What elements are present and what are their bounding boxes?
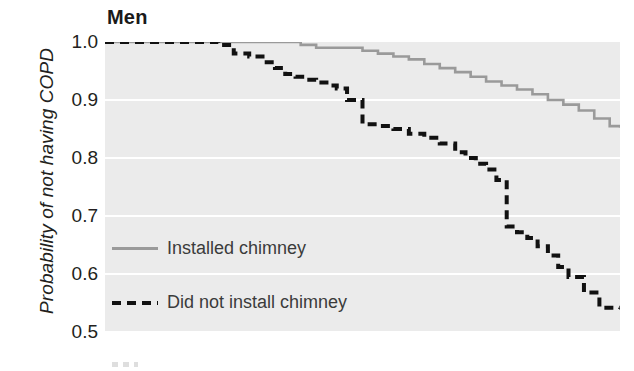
chart-figure: Probability of not having COPD 1.0 0.9 0… [0,0,634,371]
y-tick-label: 0.5 [52,321,98,343]
y-axis-tick-labels: 1.0 0.9 0.8 0.7 0.6 0.5 [50,0,98,371]
legend-entry-did-not-install-chimney: Did not install chimney [112,292,347,313]
chart-title: Men [107,6,148,29]
y-tick-label: 0.6 [52,263,98,285]
chart-curves [105,42,620,332]
legend-entry-installed-chimney: Installed chimney [112,238,306,259]
legend-label: Did not install chimney [167,292,347,313]
legend-swatch-dashed-icon [112,301,158,305]
legend-label: Installed chimney [167,238,306,259]
y-tick-label: 1.0 [52,31,98,53]
plot-area: Installed chimney Did not install chimne… [105,42,620,332]
y-tick-label: 0.8 [52,147,98,169]
page-scan-artifact [112,362,138,367]
y-tick-label: 0.7 [52,205,98,227]
y-tick-label: 0.9 [52,89,98,111]
legend-swatch-solid-icon [112,247,158,250]
series-line-did-not-install-chimney [105,42,620,309]
